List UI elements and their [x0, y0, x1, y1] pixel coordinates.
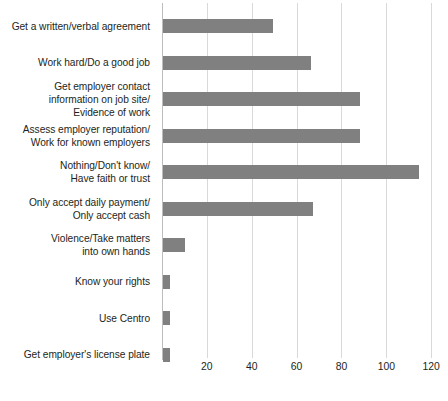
bar: [163, 19, 273, 33]
category-label: Know your rights: [0, 275, 150, 288]
category-label: Get a written/verbal agreement: [0, 20, 150, 33]
category-label: Get employer contact information on job …: [0, 80, 150, 119]
bar: [163, 92, 360, 106]
category-label: Get employer's license plate: [0, 348, 150, 361]
category-label: Nothing/Don't know/ Have faith or trust: [0, 159, 150, 185]
x-tick-label: 40: [246, 360, 258, 374]
x-tick-label: 20: [201, 360, 213, 374]
category-label: Use Centro: [0, 312, 150, 325]
bar-chart: Get a written/verbal agreementWork hard/…: [0, 0, 448, 401]
category-label: Violence/Take matters into own hands: [0, 232, 150, 258]
bar: [163, 311, 170, 325]
bar: [163, 165, 419, 179]
x-tick-label: 80: [336, 360, 348, 374]
bar: [163, 56, 311, 70]
plot-area: [162, 0, 448, 358]
x-tick-label: 100: [378, 360, 395, 374]
bar: [163, 129, 360, 143]
bar: [163, 275, 170, 289]
category-axis-labels: Get a written/verbal agreementWork hard/…: [0, 0, 158, 358]
gridline: [431, 3, 432, 358]
bar: [163, 238, 185, 252]
category-label: Assess employer reputation/ Work for kno…: [0, 123, 150, 149]
bar: [163, 202, 313, 216]
gridline: [341, 3, 342, 358]
category-label: Work hard/Do a good job: [0, 56, 150, 69]
category-label: Only accept daily payment/ Only accept c…: [0, 196, 150, 222]
value-axis-labels: 20406080100120: [162, 360, 448, 390]
gridline: [386, 3, 387, 358]
x-tick-label: 60: [291, 360, 303, 374]
x-tick-label: 120: [422, 360, 439, 374]
